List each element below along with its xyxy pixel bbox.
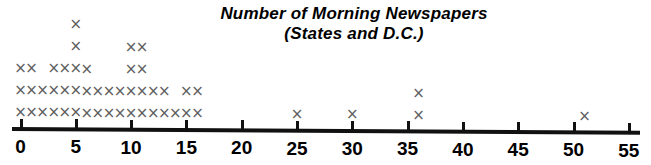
x-axis-tick bbox=[462, 122, 465, 133]
x-axis-tick-label: 35 bbox=[386, 138, 430, 160]
data-point-x-mark: × bbox=[24, 60, 40, 76]
x-axis-tick bbox=[407, 121, 410, 132]
x-axis-tick bbox=[573, 122, 576, 133]
x-axis-tick bbox=[130, 120, 133, 131]
data-point-x-mark: × bbox=[68, 16, 84, 32]
data-point-x-mark: × bbox=[68, 38, 84, 54]
data-point-x-mark: × bbox=[411, 85, 427, 101]
dot-plot-figure: Number of Morning Newspapers (States and… bbox=[0, 0, 651, 165]
x-axis-tick bbox=[296, 121, 299, 132]
x-axis-tick-label: 5 bbox=[54, 136, 98, 158]
x-axis-tick-label: 55 bbox=[607, 140, 651, 162]
x-axis-tick-label: 30 bbox=[330, 138, 374, 160]
data-point-x-mark: × bbox=[79, 61, 95, 77]
x-axis-tick-label: 0 bbox=[0, 136, 43, 158]
x-axis-tick bbox=[75, 119, 78, 130]
x-axis-tick bbox=[185, 120, 188, 131]
data-point-x-mark: × bbox=[189, 105, 205, 121]
data-point-x-mark: × bbox=[344, 106, 360, 122]
data-point-x-mark: × bbox=[289, 106, 305, 122]
data-point-x-mark: × bbox=[189, 83, 205, 99]
x-axis-tick-label: 20 bbox=[220, 137, 264, 159]
plot-area: ××××××××××××××××××××××××××××××××××××××××… bbox=[0, 0, 651, 130]
data-point-x-mark: × bbox=[577, 108, 593, 124]
data-point-x-mark: × bbox=[411, 107, 427, 123]
x-axis-tick bbox=[351, 121, 354, 132]
data-point-x-mark: × bbox=[156, 83, 172, 99]
x-axis-tick bbox=[517, 122, 520, 133]
data-point-x-mark: × bbox=[134, 39, 150, 55]
x-axis-tick bbox=[241, 120, 244, 131]
x-axis-tick-label: 40 bbox=[441, 139, 485, 161]
x-axis-tick bbox=[628, 123, 631, 134]
x-axis-tick bbox=[20, 119, 23, 130]
x-axis-tick-label: 15 bbox=[164, 137, 208, 159]
x-axis-tick-label: 50 bbox=[552, 139, 596, 161]
x-axis-tick-label: 45 bbox=[496, 139, 540, 161]
data-point-x-mark: × bbox=[134, 61, 150, 77]
x-axis-tick-label: 10 bbox=[109, 137, 153, 159]
x-axis-tick-label: 25 bbox=[275, 138, 319, 160]
